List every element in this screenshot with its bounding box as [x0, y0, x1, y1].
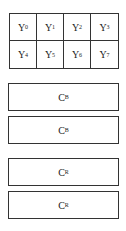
- chroma-block-2: CB: [8, 116, 119, 144]
- cell-label: Y: [45, 22, 52, 33]
- chroma-label: C: [58, 92, 65, 103]
- cell-label: Y: [45, 49, 52, 60]
- luma-cell-y4: Y4: [10, 41, 37, 68]
- cell-label: Y: [99, 49, 106, 60]
- chroma-subscript: B: [65, 127, 69, 133]
- cell-subscript: 5: [52, 52, 55, 58]
- chroma-subscript: B: [65, 94, 69, 100]
- luma-cell-y2: Y2: [64, 14, 91, 41]
- cell-label: Y: [72, 49, 79, 60]
- chroma-label: C: [58, 125, 65, 136]
- chroma-block-3: CR: [8, 158, 119, 186]
- luma-cell-y1: Y1: [37, 14, 64, 41]
- luma-cell-y7: Y7: [91, 41, 118, 68]
- cell-subscript: 7: [107, 52, 110, 58]
- luma-cell-y6: Y6: [64, 41, 91, 68]
- luma-cell-y3: Y3: [91, 14, 118, 41]
- cell-subscript: 0: [25, 24, 28, 30]
- luma-cell-y5: Y5: [37, 41, 64, 68]
- luma-block-grid: Y0 Y1 Y2 Y3 Y4 Y5 Y6 Y7: [9, 13, 119, 69]
- cell-subscript: 3: [107, 24, 110, 30]
- chroma-label: C: [58, 167, 65, 178]
- cell-label: Y: [72, 22, 79, 33]
- cell-label: Y: [18, 49, 25, 60]
- cell-subscript: 4: [25, 52, 28, 58]
- cell-subscript: 2: [79, 24, 82, 30]
- chroma-subscript: R: [65, 202, 69, 208]
- chroma-label: C: [58, 200, 65, 211]
- chroma-subscript: R: [65, 169, 69, 175]
- cell-label: Y: [18, 22, 25, 33]
- luma-cell-y0: Y0: [10, 14, 37, 41]
- cell-subscript: 6: [79, 52, 82, 58]
- cell-subscript: 1: [52, 24, 55, 30]
- chroma-block-1: CB: [8, 83, 119, 111]
- chroma-block-4: CR: [8, 191, 119, 219]
- cell-label: Y: [99, 22, 106, 33]
